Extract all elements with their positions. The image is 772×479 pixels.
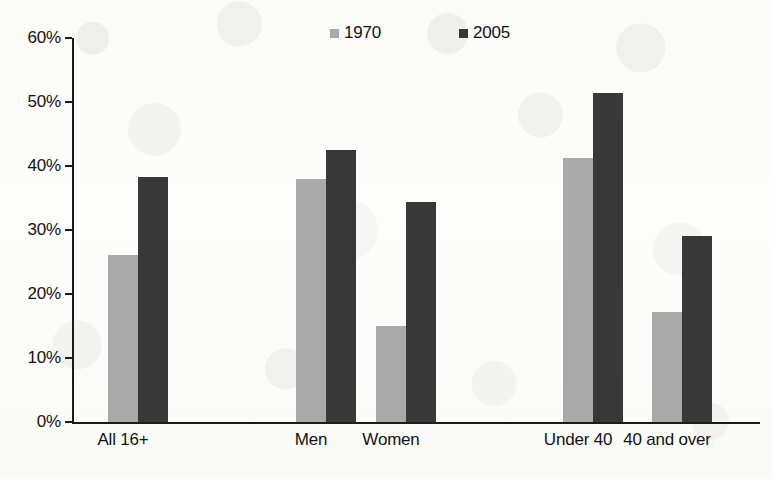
y-axis-tick-label: 30%	[28, 220, 61, 240]
bar-group	[652, 38, 712, 422]
y-axis-tick	[65, 293, 72, 295]
bar-2005-40-and-over	[682, 236, 712, 422]
legend-swatch-2005	[459, 29, 468, 38]
bar-group	[296, 38, 356, 422]
y-axis-tick	[65, 229, 72, 231]
bar-2005-all-16	[138, 177, 168, 422]
y-axis-tick-label: 0%	[37, 412, 61, 432]
bar-2005-women	[406, 202, 436, 422]
y-axis-tick	[65, 101, 72, 103]
bar-1970-all-16	[108, 255, 138, 422]
bar-2005-under-40	[593, 93, 623, 422]
bar-2005-men	[326, 150, 356, 422]
x-axis-label: Women	[321, 430, 461, 450]
bar-chart: 1970 2005 0%10%20%30%40%50%60% All 16+Me…	[0, 0, 772, 479]
y-axis-tick	[65, 357, 72, 359]
y-axis-tick-label: 20%	[28, 284, 61, 304]
y-axis-tick	[65, 421, 72, 423]
y-axis-line	[72, 38, 74, 422]
x-axis-label: All 16+	[53, 430, 193, 450]
legend-swatch-1970	[330, 29, 339, 38]
y-axis-tick	[65, 165, 72, 167]
x-axis-line	[72, 422, 760, 424]
y-axis-tick-label: 10%	[28, 348, 61, 368]
bar-group	[108, 38, 168, 422]
bar-1970-under-40	[563, 158, 593, 422]
y-axis-tick	[65, 37, 72, 39]
bar-1970-women	[376, 326, 406, 422]
y-axis-tick-label: 50%	[28, 92, 61, 112]
y-axis-tick-label: 40%	[28, 156, 61, 176]
bar-1970-men	[296, 179, 326, 422]
bar-group	[563, 38, 623, 422]
bar-group	[376, 38, 436, 422]
y-axis-tick-label: 60%	[28, 28, 61, 48]
plot-area: 0%10%20%30%40%50%60% All 16+MenWomenUnde…	[72, 38, 760, 422]
bar-1970-40-and-over	[652, 312, 682, 422]
x-axis-label: 40 and over	[597, 430, 737, 450]
